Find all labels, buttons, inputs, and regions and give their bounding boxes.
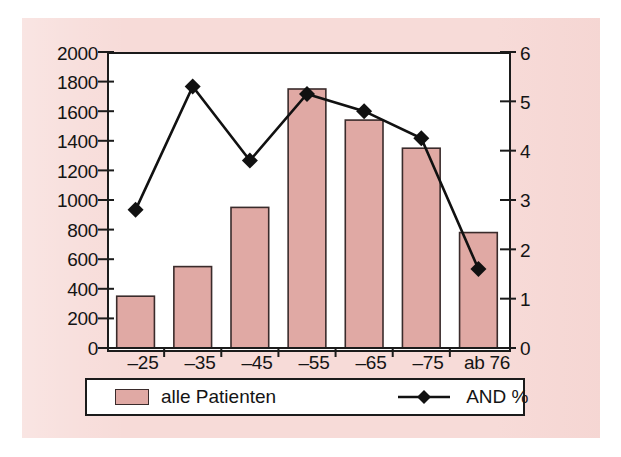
bar [231, 207, 269, 348]
bar [288, 89, 326, 348]
ytick-left-1400: 1400 [20, 131, 98, 153]
legend-label-alle-patienten: alle Patienten [161, 386, 276, 408]
ytick-right-6: 6 [520, 43, 570, 65]
ytick-left-1200: 1200 [20, 161, 98, 183]
line-marker-diamond [128, 202, 144, 218]
legend-label-and-percent: AND % [466, 386, 528, 408]
legend-line-diamond-icon [396, 388, 452, 406]
line-marker-diamond [413, 130, 429, 146]
ytick-left-200: 200 [20, 308, 98, 330]
chart-figure: 0 200 400 600 800 1000 1200 1400 1600 18… [0, 0, 621, 457]
bar [174, 267, 212, 348]
ytick-right-0: 0 [520, 338, 570, 360]
ytick-left-400: 400 [20, 279, 98, 301]
legend-bar-swatch-icon [115, 389, 149, 405]
line-marker-diamond [356, 103, 372, 119]
plot-series-layer [107, 52, 507, 348]
bar [402, 148, 440, 348]
ytick-right-1: 1 [520, 289, 570, 311]
legend-entry-alle-patienten: alle Patienten [115, 380, 276, 414]
bar [117, 296, 155, 348]
ytick-left-0: 0 [20, 338, 98, 360]
legend-entry-and-percent: AND % [396, 380, 528, 414]
ytick-right-5: 5 [520, 92, 570, 114]
ytick-left-800: 800 [20, 220, 98, 242]
xtick-label-6: ab 76 [447, 352, 527, 374]
ytick-left-2000: 2000 [20, 43, 98, 65]
ytick-left-1800: 1800 [20, 72, 98, 94]
ytick-left-1000: 1000 [20, 190, 98, 212]
ytick-right-4: 4 [520, 141, 570, 163]
ytick-left-600: 600 [20, 249, 98, 271]
ytick-right-2: 2 [520, 240, 570, 262]
ytick-left-1600: 1600 [20, 102, 98, 124]
ytick-right-3: 3 [520, 190, 570, 212]
bar [345, 120, 383, 348]
bar [460, 233, 498, 348]
chart-legend: alle Patienten AND % [85, 378, 525, 416]
